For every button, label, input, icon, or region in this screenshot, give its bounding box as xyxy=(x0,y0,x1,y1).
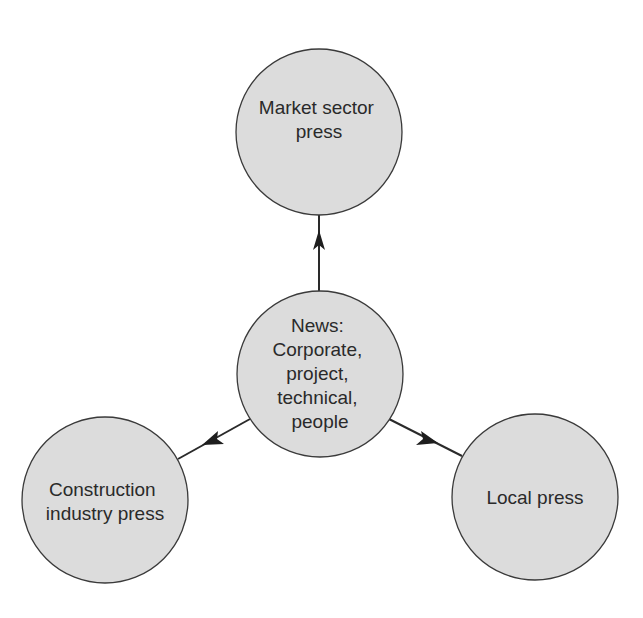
node-label-line: Market sector xyxy=(259,97,375,118)
node-label-line: project, xyxy=(286,363,348,384)
node-news-center: News: Corporate, project, technical, peo… xyxy=(237,291,403,457)
diagram-canvas: Market sector press News: Corporate, pro… xyxy=(0,0,643,618)
svg-text:Local press: Local press xyxy=(486,487,583,508)
node-construction-industry-press: Construction industry press xyxy=(22,417,188,583)
node-label-line: Construction xyxy=(49,479,156,500)
node-label-line: technical, xyxy=(277,387,357,408)
node-label-line: Corporate, xyxy=(272,339,362,360)
arrowhead-icon xyxy=(202,431,224,445)
node-label-line: industry press xyxy=(46,503,164,524)
edge-news-to-construction xyxy=(178,419,250,459)
node-label-line: people xyxy=(291,411,348,432)
edge-news-to-local xyxy=(389,419,462,456)
node-local-press: Local press xyxy=(452,414,618,580)
node-market-sector-press: Market sector press xyxy=(236,49,402,215)
node-label-line: press xyxy=(296,121,342,142)
node-label-line: News: xyxy=(291,315,344,336)
arrowhead-icon xyxy=(416,431,438,445)
edge-news-to-market xyxy=(313,215,325,291)
node-label-line: Local press xyxy=(486,487,583,508)
